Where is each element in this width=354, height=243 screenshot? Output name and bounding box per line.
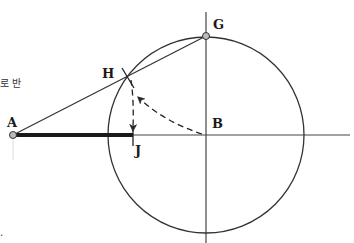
- point-g: [203, 33, 210, 40]
- point-a: [10, 132, 17, 139]
- label-g: G: [213, 17, 224, 32]
- dashed-arc-b-h: [140, 99, 202, 134]
- label-b: B: [212, 116, 223, 131]
- label-a: A: [6, 115, 18, 130]
- label-j: J: [134, 143, 141, 158]
- side-text-bottom: .: [0, 227, 3, 238]
- geometry-diagram: A B G H J 로 반 .: [0, 0, 354, 243]
- side-text-top: 로 반: [0, 78, 21, 89]
- label-h: H: [102, 66, 114, 81]
